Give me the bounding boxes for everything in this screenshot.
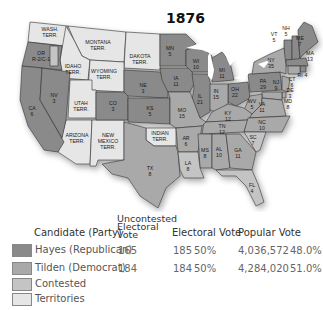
legend-row-territories: Territories [12,293,212,307]
contested-swatch [12,278,32,291]
state-oregon-contested [50,46,58,66]
svg-text:6: 6 [185,141,188,147]
svg-text:TERR.: TERR. [42,32,58,38]
svg-text:5: 5 [251,104,254,110]
tilden-popular: 4,284,020 [238,263,289,274]
state-florida [216,170,264,206]
svg-text:6: 6 [291,82,294,88]
svg-text:TERR.: TERR. [69,138,85,144]
svg-text:TERR.: TERR. [132,59,148,65]
svg-text:6: 6 [31,111,34,117]
svg-text:11: 11 [235,153,240,159]
tilden-label: Tilden (Democrat) [35,262,126,273]
svg-text:29: 29 [260,84,266,90]
svg-text:7: 7 [299,41,302,47]
svg-text:5: 5 [273,37,276,43]
tilden-popular-pct: 51.0% [290,263,322,274]
header-electoral-vote: Electoral Vote [172,228,241,237]
svg-text:8: 8 [149,171,152,177]
svg-text:12: 12 [225,116,231,122]
svg-text:4: 4 [251,188,254,194]
svg-text:13: 13 [307,56,313,62]
svg-text:10: 10 [259,125,265,131]
territory-utah [68,80,96,118]
hayes-popular-pct: 48.0% [290,245,322,256]
svg-text:22: 22 [232,92,238,98]
legend-row-contested: Contested [12,278,212,292]
hayes-swatch [12,244,32,257]
svg-text:4: 4 [305,72,308,78]
svg-text:10: 10 [193,64,199,70]
svg-text:7: 7 [252,140,255,146]
svg-text:11: 11 [219,73,224,79]
svg-text:8: 8 [187,166,190,172]
svg-text:3: 3 [112,106,115,112]
header-popular-vote: Popular Vote [238,228,301,237]
svg-text:R-2/C-1: R-2/C-1 [32,56,50,62]
hayes-uncontested: 165 [118,245,137,256]
header-candidate: Candidate (Party) [34,228,122,237]
results-legend: Candidate (Party) Uncontested Electoral … [0,212,323,310]
svg-text:3: 3 [142,88,145,94]
us-election-map-1876: WASH.TERR. MONTANATERR. DAKOTATERR. ORR-… [0,0,323,212]
tilden-swatch [12,262,32,275]
svg-text:10: 10 [216,152,222,158]
svg-text:5: 5 [169,51,172,57]
svg-text:35: 35 [268,63,274,69]
svg-text:11: 11 [259,107,264,113]
svg-text:TERR.: TERR. [100,144,116,150]
tilden-uncontested: 184 [118,263,137,274]
hayes-popular: 4,036,572 [238,245,289,256]
svg-text:TERR.: TERR. [96,74,112,80]
svg-text:TERR.: TERR. [152,136,168,142]
svg-text:TERR.: TERR. [90,45,106,51]
svg-text:21: 21 [197,99,203,105]
tilden-electoral-pct: 50% [194,263,216,274]
svg-text:3: 3 [53,98,56,104]
tilden-electoral: 184 [173,263,192,274]
svg-text:9: 9 [275,85,278,91]
hayes-electoral-pct: 50% [194,245,216,256]
contested-label: Contested [35,278,86,289]
hayes-electoral: 185 [173,245,192,256]
territories-swatch [12,293,32,306]
svg-text:5: 5 [149,111,152,117]
svg-text:11: 11 [173,81,178,87]
svg-text:8: 8 [287,104,290,110]
svg-text:TERR.: TERR. [73,106,89,112]
svg-text:TERR.: TERR. [65,69,81,75]
svg-text:8: 8 [204,153,207,159]
svg-text:12: 12 [219,129,225,135]
state-north-carolina [244,116,290,132]
svg-text:RI: RI [297,72,302,78]
territories-label: Territories [35,293,85,304]
svg-text:15: 15 [213,94,219,100]
svg-text:5: 5 [285,31,288,37]
svg-text:15: 15 [179,113,185,119]
header-uncontested-3: Vote [117,230,138,239]
